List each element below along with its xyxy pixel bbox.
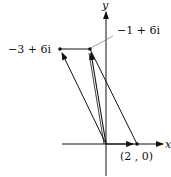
y-axis: y <box>101 0 109 176</box>
parallelogram-right <box>90 49 137 144</box>
y-axis-label: y <box>101 0 109 12</box>
vector-neg3-6i <box>62 53 106 144</box>
label-2-0: (2 , 0) <box>120 150 153 163</box>
x-axis-label: x <box>165 138 171 151</box>
label-neg3-6i: −3 + 6i <box>8 43 51 56</box>
label-neg1-6i: −1 + 6i <box>117 24 160 37</box>
complex-plane-diagram: x y −1 + 6i −3 + 6i (2 , 0) <box>0 0 171 177</box>
vector-neg1-6i-double <box>89 53 104 144</box>
label-leader-line <box>91 36 113 48</box>
